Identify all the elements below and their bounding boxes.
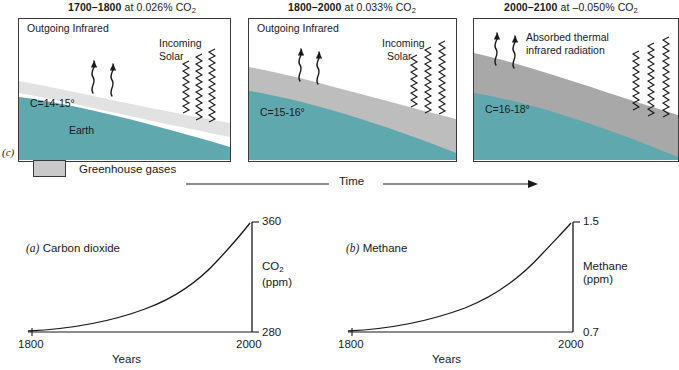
scenario-panel-2: Outgoing Infrared Incoming Solar C=15-16… xyxy=(248,18,457,162)
chart-a-letter: (a) xyxy=(26,242,39,254)
chart-methane: (b) Methane 1.5 0.7 1800 2000 Methane(pp… xyxy=(330,210,678,370)
time-axis-label: Time xyxy=(334,175,369,187)
chart-a-caption: (a) Carbon dioxide xyxy=(26,242,120,254)
chart-b-y-axis-title: Methane(ppm) xyxy=(583,260,628,286)
chart-a-ylabel-max: 360 xyxy=(262,215,281,227)
chart-b-xlabel-end: 2000 xyxy=(558,338,584,350)
panel-title-2: 1800–2000 at 0.033% CO2 xyxy=(288,1,416,15)
panel-2-title-subscript: 2 xyxy=(412,6,416,15)
panel-1-earth-label: Earth xyxy=(69,124,94,136)
chart-a-x-axis-title: Years xyxy=(112,353,141,365)
chart-b-x-axis-title: Years xyxy=(432,353,461,365)
panel-1-title-rest: at 0.026% CO xyxy=(121,1,191,13)
panel-3-temperature-label: C=16-18° xyxy=(485,103,530,115)
chart-a-y-axis-title: CO2(ppm) xyxy=(262,260,292,289)
chart-b-letter: (b) xyxy=(346,242,359,254)
chart-carbon-dioxide: (a) Carbon dioxide 360 280 1800 2000 CO2… xyxy=(0,210,330,370)
chart-b-title: Methane xyxy=(363,242,408,254)
panel-1-temperature-label: C=14-15° xyxy=(30,97,75,109)
chart-a-xlabel-start: 1800 xyxy=(18,338,44,350)
panel-3-absorbed-label-line1: Absorbed thermal xyxy=(526,31,609,43)
scenario-panel-1: Outgoing Infrared Incoming Solar C=14-15… xyxy=(18,18,231,162)
panel-3-absorbed-label-line2: infrared radiation xyxy=(526,44,605,56)
chart-b-y-axis-units: (ppm) xyxy=(583,273,613,285)
chart-b-y-axis-title-main: Methane xyxy=(583,260,628,272)
greenhouse-gases-swatch xyxy=(33,160,66,177)
chart-b-ylabel-max: 1.5 xyxy=(583,215,599,227)
panel-2-years: 1800–2000 xyxy=(288,1,341,13)
figure-part-c-label: (c) xyxy=(2,146,14,158)
time-axis-arrow: Time xyxy=(186,172,538,196)
panel-2-incoming-solar-label-line2: Solar xyxy=(387,50,412,62)
chart-b-caption: (b) Methane xyxy=(346,242,407,254)
greenhouse-gases-legend-label: Greenhouse gases xyxy=(79,163,176,175)
panel-3-title-rest: at –0.050% CO xyxy=(557,1,633,13)
panel-2-incoming-solar-label-line1: Incoming xyxy=(382,37,425,49)
panel-2-outgoing-infrared-label: Outgoing Infrared xyxy=(257,22,339,34)
chart-b-ylabel-min: 0.7 xyxy=(583,326,599,338)
chart-b-xlabel-start: 1800 xyxy=(338,338,364,350)
panel-1-incoming-solar-label-line1: Incoming xyxy=(159,37,202,49)
absorbed-infrared-arrowheads-3 xyxy=(494,33,518,42)
panel-3-title-subscript: 2 xyxy=(634,6,638,15)
chart-a-ylabel-min: 280 xyxy=(262,326,281,338)
chart-b-svg xyxy=(330,210,678,370)
chart-a-xlabel-end: 2000 xyxy=(236,338,262,350)
panel-2-title-rest: at 0.033% CO xyxy=(341,1,411,13)
panel-1-title-subscript: 2 xyxy=(192,6,196,15)
panel-title-3: 2000–2100 at –0.050% CO2 xyxy=(504,1,638,15)
chart-a-y-axis-units: (ppm) xyxy=(262,276,292,288)
incoming-solar-rays-1 xyxy=(183,49,215,122)
panel-1-incoming-solar-label-line2: Solar xyxy=(159,50,184,62)
panel-1-years: 1700–1800 xyxy=(68,1,121,13)
chart-a-title: Carbon dioxide xyxy=(43,242,120,254)
scenario-panel-3: Absorbed thermal infrared radiation C=16… xyxy=(473,18,679,162)
chart-a-y-axis-title-main: CO xyxy=(262,260,279,272)
legend: Greenhouse gases xyxy=(33,160,176,177)
chart-a-y-axis-title-sub: 2 xyxy=(279,265,283,274)
panel-2-temperature-label: C=15-16° xyxy=(260,106,305,118)
outgoing-infrared-arrowheads-1 xyxy=(91,61,116,70)
panel-title-1: 1700–1800 at 0.026% CO2 xyxy=(68,1,196,15)
chart-a-data-curve xyxy=(28,223,250,331)
time-arrowhead xyxy=(528,180,538,188)
outgoing-infrared-arrowheads-2 xyxy=(298,49,322,58)
panel-3-years: 2000–2100 xyxy=(504,1,557,13)
chart-a-svg xyxy=(0,210,330,370)
panel-1-outgoing-infrared-label: Outgoing Infrared xyxy=(27,22,109,34)
incoming-solar-rays-2 xyxy=(411,41,445,114)
chart-b-data-curve xyxy=(348,223,571,331)
